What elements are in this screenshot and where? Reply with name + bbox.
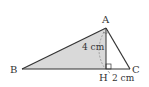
- side-ac: [106, 28, 130, 69]
- label-a: A: [101, 14, 110, 25]
- brace-hc: [108, 71, 110, 73]
- right-angle-marker: [106, 64, 111, 69]
- label-b: B: [10, 64, 17, 75]
- label-hc-length: 2 cm: [112, 73, 135, 83]
- label-ah-length: 4 cm: [82, 42, 105, 52]
- label-h: H: [99, 72, 108, 83]
- triangle-diagram: A B C H 4 cm 2 cm: [0, 0, 149, 87]
